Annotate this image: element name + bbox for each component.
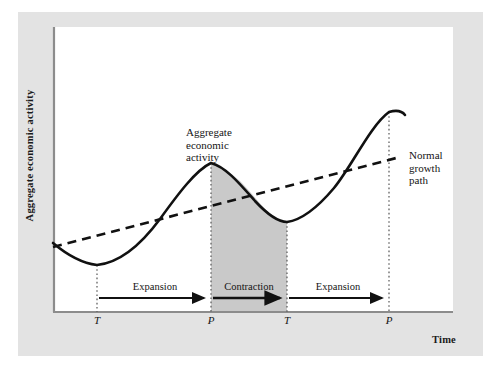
- x-axis-title: Time: [432, 334, 456, 345]
- phase-label-expansion-1: Expansion: [98, 281, 212, 292]
- aggregate-activity-label: Aggregate economic activity: [186, 126, 232, 164]
- turning-point-trough-2: T: [277, 314, 297, 326]
- normal-growth-path-label: Normal growth path: [409, 149, 443, 187]
- phase-label-contraction: Contraction: [211, 281, 287, 292]
- turning-point-peak-2: P: [379, 314, 399, 326]
- turning-point-trough-1: T: [87, 314, 107, 326]
- turning-point-peak-1: P: [201, 314, 221, 326]
- y-axis-title: Aggregate economic activity: [24, 61, 35, 251]
- business-cycle-figure: Aggregate economic activity Time Aggrega…: [0, 0, 501, 369]
- phase-label-expansion-2: Expansion: [287, 281, 389, 292]
